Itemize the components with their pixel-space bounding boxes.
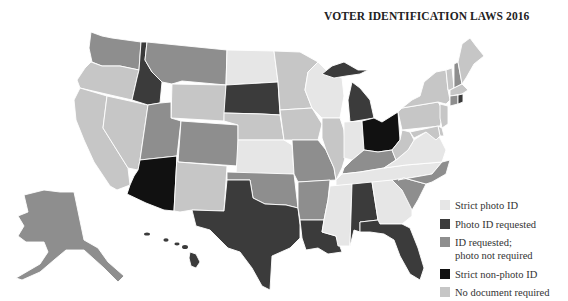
legend-swatch-strict-photo-id — [440, 200, 450, 210]
legend-swatch-id-requested — [440, 237, 450, 247]
legend-swatch-strict-non-photo-id — [440, 269, 450, 279]
state-NJ[interactable] — [440, 104, 448, 128]
legend-item-strict-photo-id: Strict photo ID — [440, 199, 568, 212]
state-AK[interactable] — [16, 190, 124, 282]
state-IA[interactable] — [280, 108, 322, 140]
state-KS[interactable] — [236, 140, 294, 174]
legend-item-photo-id-requested: Photo ID requested — [440, 218, 568, 231]
state-ME[interactable] — [458, 38, 484, 84]
state-MI[interactable] — [348, 82, 374, 122]
legend-label: Strict photo ID — [455, 199, 518, 212]
legend-swatch-no-document-required — [440, 287, 450, 297]
map-legend: Strict photo ID Photo ID requested ID re… — [440, 199, 568, 301]
state-NY[interactable] — [402, 70, 450, 108]
state-HI[interactable] — [144, 232, 200, 268]
legend-label: ID requested;photo not required — [455, 236, 533, 262]
legend-label: Photo ID requested — [455, 218, 536, 231]
legend-item-id-requested: ID requested;photo not required — [440, 236, 568, 262]
legend-item-no-document-required: No document required — [440, 286, 568, 299]
state-SD[interactable] — [224, 82, 280, 115]
legend-label: Strict non-photo ID — [455, 268, 537, 281]
state-WY[interactable] — [171, 84, 226, 121]
legend-swatch-photo-id-requested — [440, 219, 450, 229]
legend-item-strict-non-photo-id: Strict non-photo ID — [440, 268, 568, 281]
legend-label-line1: ID requested; — [455, 237, 512, 248]
state-CO[interactable] — [178, 121, 238, 166]
state-ND[interactable] — [226, 50, 278, 85]
state-FL[interactable] — [360, 220, 424, 280]
legend-label-line2: photo not required — [455, 250, 533, 261]
state-MI-upper[interactable] — [322, 62, 368, 78]
state-CT[interactable] — [450, 95, 458, 106]
state-RI[interactable] — [458, 94, 463, 104]
legend-label: No document required — [455, 286, 549, 299]
